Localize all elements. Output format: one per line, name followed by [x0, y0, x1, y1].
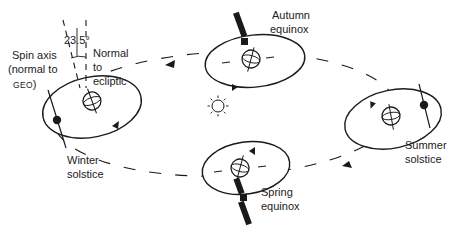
spring-equinox-label-line2: equinox — [261, 200, 300, 213]
normal-ecliptic-label-line1: Normal — [93, 47, 128, 60]
sun-icon — [208, 96, 229, 117]
geo-abbrev: GEO — [13, 80, 33, 90]
summer-solstice-label-line1: Summer — [405, 139, 447, 152]
winter-solstice-label-line1: Winter — [67, 154, 99, 167]
winter-solstice-system — [37, 67, 147, 148]
autumn-equinox-label-line2: equinox — [270, 23, 309, 36]
spin-axis-label-line3: GEO) — [13, 78, 36, 92]
normal-ecliptic-label-line3: ecliptic — [93, 75, 127, 88]
spin-axis-label-line1: Spin axis — [12, 49, 57, 62]
summer-solstice-label-line2: solstice — [405, 153, 442, 166]
spring-equinox-label-line1: Spring — [261, 186, 293, 199]
close-paren: ) — [33, 78, 37, 90]
angle-arc — [71, 56, 86, 58]
winter-solstice-label-line2: solstice — [67, 168, 104, 181]
orbit-arrow-top — [165, 60, 175, 68]
normal-ecliptic-label-line2: to — [93, 61, 102, 74]
orbit-arrow-bottom — [342, 161, 352, 168]
angle-label: 23.5° — [64, 34, 90, 47]
spin-axis-label-line2: (normal to — [8, 63, 58, 76]
autumn-equinox-label-line1: Autumn — [272, 9, 310, 22]
